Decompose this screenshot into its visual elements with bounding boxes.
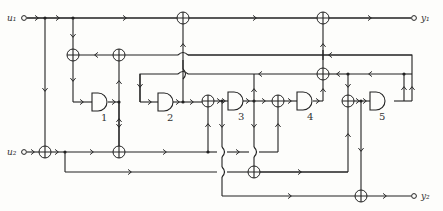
terminals: u₁ u₂ y₁ y₂	[7, 13, 430, 201]
gate-3-label: 3	[238, 111, 244, 122]
adder-top-1	[177, 12, 189, 24]
gate-5-label: 5	[379, 111, 385, 122]
adder-a	[67, 49, 79, 61]
adder-f	[342, 95, 354, 107]
gate-4: 4	[297, 92, 313, 122]
output-y1-terminal	[412, 16, 417, 21]
gate-1-label: 1	[101, 112, 107, 123]
gate-3: 3	[228, 92, 244, 122]
gate-2: 2	[158, 93, 173, 123]
input-u1-label: u₁	[7, 13, 16, 23]
circuit-diagram: 1 2 3 4 5 u₁ u₂ y₁ y₂	[0, 0, 443, 211]
adders	[39, 12, 367, 202]
adder-y2	[355, 190, 367, 202]
input-u1-terminal	[22, 16, 27, 21]
output-y2-label: y₂	[420, 191, 430, 201]
adder-e	[272, 95, 284, 107]
gate-2-label: 2	[167, 112, 173, 123]
adder-b	[113, 49, 125, 61]
junctions	[43, 16, 405, 153]
output-y1-label: y₁	[420, 13, 430, 23]
adder-h	[248, 166, 260, 178]
gates: 1 2 3 4 5	[92, 92, 385, 123]
adder-top-2	[317, 12, 329, 24]
gate-4-label: 4	[307, 111, 313, 122]
adder-g	[113, 146, 125, 158]
gate-1: 1	[92, 93, 107, 123]
adder-d	[202, 95, 214, 107]
wires	[27, 18, 412, 196]
input-u2-label: u₂	[7, 147, 17, 157]
adder-u2	[39, 146, 51, 158]
input-u2-terminal	[22, 150, 27, 155]
adder-c	[317, 68, 329, 80]
gate-5: 5	[370, 92, 385, 122]
output-y2-terminal	[412, 194, 417, 199]
